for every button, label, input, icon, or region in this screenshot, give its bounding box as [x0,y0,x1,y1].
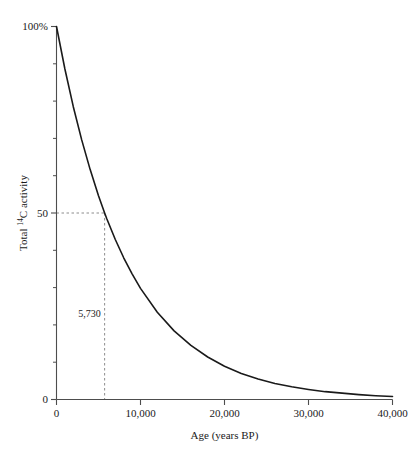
y-axis-title: Total 14C activity [16,175,29,251]
y-axis-tick-label: 100% [22,20,48,32]
x-axis-tick-label: 0 [54,407,60,419]
half-life-label: 5,730 [78,308,101,319]
decay-curve-group [57,27,393,397]
radiocarbon-decay-figure: 050100%010,00020,00030,00040,000 5,730 A… [0,0,418,454]
tick-marks-group [51,27,393,406]
annotations-group: 5,730 [78,308,101,319]
x-axis-tick-label: 30,000 [293,407,324,419]
y-axis-tick-label: 0 [43,393,49,405]
x-axis-tick-label: 40,000 [377,407,408,419]
decay-curve-path [57,27,393,397]
x-axis-tick-label: 20,000 [209,407,240,419]
axis-titles-group: Age (years BP)Total 14C activity [16,175,259,442]
x-axis-tick-label: 10,000 [125,407,156,419]
axes-group [57,27,393,400]
x-axis-title: Age (years BP) [191,429,259,442]
decay-curve-chart: 050100%010,00020,00030,00040,000 5,730 A… [0,0,418,454]
y-axis-title-suffix: C activity [17,175,29,219]
y-axis-title-prefix: Total [17,226,29,251]
guide-lines-group [57,213,105,400]
tick-labels-group: 050100%010,00020,00030,00040,000 [22,20,408,418]
y-axis-tick-label: 50 [37,207,49,219]
